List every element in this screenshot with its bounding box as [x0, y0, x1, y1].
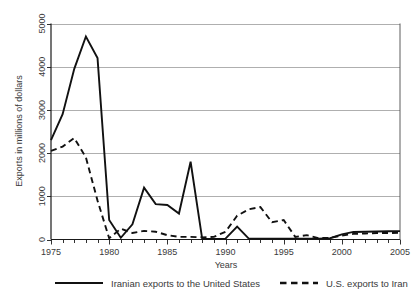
y-axis-tick-labels: 010002000300040005000 — [37, 13, 47, 242]
legend: Iranian exports to the United States U.S… — [55, 278, 408, 289]
series-line-iranian-exports — [51, 36, 400, 239]
x-tick-label-1980: 1980 — [99, 247, 119, 257]
series-line-us-exports — [51, 138, 400, 238]
x-tick-label-1985: 1985 — [157, 247, 177, 257]
y-tick-label-5000: 5000 — [37, 13, 47, 33]
y-tick-label-1000: 1000 — [37, 186, 47, 206]
x-tick-label-1995: 1995 — [274, 247, 294, 257]
x-tick-label-2000: 2000 — [332, 247, 352, 257]
x-axis-title: Years — [215, 260, 238, 270]
y-tick-label-0: 0 — [37, 237, 47, 242]
x-tick-label-2005: 2005 — [390, 247, 410, 257]
y-tick-label-3000: 3000 — [37, 100, 47, 120]
legend-label-iranian-exports: Iranian exports to the United States — [111, 278, 260, 289]
gridlines-group — [51, 25, 400, 197]
y-tick-label-2000: 2000 — [37, 143, 47, 163]
chart-container: 010002000300040005000 197519801985199019… — [0, 0, 419, 295]
y-axis-title: Exports in millions of dollars — [14, 75, 24, 187]
x-axis-tick-labels: 1975198019851990199520002005 — [41, 247, 410, 257]
x-tick-label-1975: 1975 — [41, 247, 61, 257]
exports-line-chart: 010002000300040005000 197519801985199019… — [0, 0, 419, 295]
x-tick-label-1990: 1990 — [215, 247, 235, 257]
legend-label-us-exports: U.S. exports to Iran — [326, 278, 408, 289]
y-tick-label-4000: 4000 — [37, 57, 47, 77]
